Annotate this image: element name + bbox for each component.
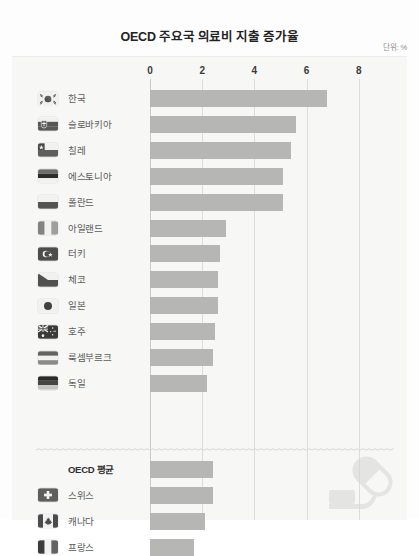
country-label: 에스토니아 [68, 169, 112, 183]
bar-row: 슬로바키아 [12, 116, 407, 133]
flag-south-korea-icon [38, 92, 58, 106]
value-bar [150, 513, 205, 530]
country-label: 스위스 [68, 488, 94, 502]
bar-row: 일본 [12, 297, 407, 314]
flag-switzerland-icon [38, 488, 58, 502]
bar-row: 호주 [12, 323, 407, 340]
country-label: 체코 [68, 272, 85, 286]
country-label: OECD 평균 [68, 462, 114, 476]
pill-capsule-icon [327, 452, 401, 516]
value-bar [150, 116, 296, 133]
flag-chile-icon [38, 143, 58, 157]
bar-row: 룩셈부르크 [12, 349, 407, 366]
unit-label: 단위: % [383, 41, 407, 52]
value-bar [150, 168, 283, 185]
flag-france-icon [38, 540, 58, 554]
flag-luxembourg-icon [38, 351, 58, 365]
flag-canada-icon [38, 514, 58, 528]
country-label: 호주 [68, 324, 85, 338]
bar-row: 에스토니아 [12, 168, 407, 185]
country-label: 룩셈부르크 [68, 350, 112, 364]
flag-poland-icon [38, 195, 58, 209]
value-bar [150, 245, 220, 262]
value-bar [150, 220, 226, 237]
flag-estonia-icon [38, 169, 58, 183]
x-tick-label-2: 2 [199, 65, 205, 76]
value-bar [150, 349, 213, 366]
flag-turkey-icon [38, 247, 58, 261]
country-label: 프랑스 [68, 540, 94, 554]
value-bar [150, 323, 215, 340]
value-bar [150, 90, 327, 107]
bar-row: 터키 [12, 245, 407, 262]
x-tick-label-8: 8 [356, 65, 362, 76]
country-label: 슬로바키아 [68, 117, 112, 131]
value-bar [150, 539, 194, 556]
flag-ireland-icon [38, 221, 58, 235]
bar-row: 독일 [12, 375, 407, 392]
bar-row: 폴란드 [12, 194, 407, 211]
bar-row: 칠레 [12, 142, 407, 159]
x-tick-label-6: 6 [304, 65, 310, 76]
country-label: 폴란드 [68, 195, 94, 209]
bar-row: 프랑스 [12, 539, 407, 556]
country-label: 캐나다 [68, 514, 94, 528]
country-label: 아일랜드 [68, 221, 103, 235]
value-bar [150, 487, 213, 504]
value-bar [150, 461, 213, 478]
country-label: 일본 [68, 298, 85, 312]
value-bar [150, 142, 291, 159]
flag-slovakia-icon [38, 117, 58, 131]
x-tick-label-4: 4 [252, 65, 258, 76]
country-label: 한국 [68, 91, 85, 105]
value-bar [150, 375, 207, 392]
value-bar [150, 297, 218, 314]
flag-australia-icon [38, 325, 58, 339]
value-bar [150, 271, 218, 288]
bar-row: 한국 [12, 90, 407, 107]
country-label: 칠레 [68, 143, 85, 157]
page-title: OECD 주요국 의료비 지출 증가율 [0, 26, 419, 45]
flag-japan-icon [38, 299, 58, 313]
flag-germany-icon [38, 376, 58, 390]
bar-row: 아일랜드 [12, 220, 407, 237]
x-tick-label-0: 0 [147, 65, 153, 76]
country-label: 터키 [68, 246, 85, 260]
value-bar [150, 194, 283, 211]
bar-row: 체코 [12, 271, 407, 288]
flag-czech-icon [38, 273, 58, 287]
chart-panel: 02468 한국슬로바키아칠레에스토니아폴란드아일랜드터키체코일본호주룩셈부르크… [12, 56, 407, 520]
country-label: 독일 [68, 376, 85, 390]
